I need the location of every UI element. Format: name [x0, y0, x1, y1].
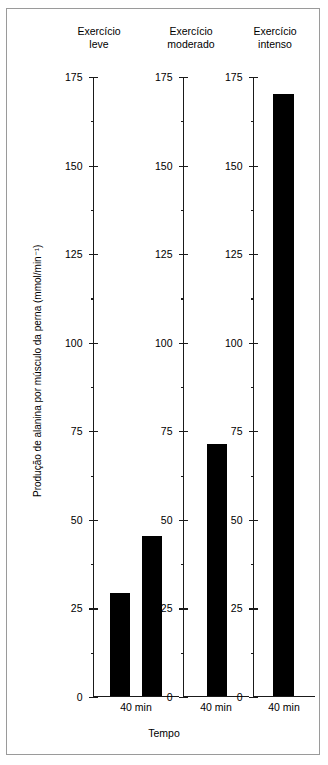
- y-tick-label-75: 75: [231, 426, 243, 437]
- y-tick-minor: [91, 210, 94, 211]
- y-tick-label-125: 125: [155, 249, 173, 260]
- y-tick-label-125: 125: [65, 249, 83, 260]
- y-tick-minor: [251, 653, 254, 654]
- y-tick-0: 0: [89, 697, 98, 698]
- y-tick-label-100: 100: [65, 337, 83, 348]
- y-tick-minor: [91, 476, 94, 477]
- y-tick-label-150: 150: [225, 160, 243, 171]
- y-tick-minor: [181, 298, 184, 299]
- y-tick-0: 0: [179, 697, 188, 698]
- panel-title-leve: Exercício leve: [55, 25, 143, 50]
- y-tick-150: 150: [249, 166, 258, 167]
- y-tick-label-75: 75: [71, 426, 83, 437]
- y-tick-minor: [181, 387, 184, 388]
- y-tick-25: 25: [89, 608, 98, 609]
- x-tick-label: 40 min: [237, 701, 328, 713]
- y-tick-minor: [91, 121, 94, 122]
- y-tick-100: 100: [179, 343, 188, 344]
- y-tick-150: 150: [89, 166, 98, 167]
- y-tick-label-150: 150: [155, 160, 173, 171]
- bar: [273, 94, 294, 696]
- y-tick-minor: [91, 564, 94, 565]
- y-tick-label-25: 25: [231, 603, 243, 614]
- panel-title-moderado: Exercício moderado: [147, 25, 235, 50]
- y-tick-100: 100: [89, 343, 98, 344]
- y-tick-minor: [181, 564, 184, 565]
- y-tick-label-175: 175: [65, 72, 83, 83]
- y-tick-minor: [251, 564, 254, 565]
- y-tick-label-100: 100: [155, 337, 173, 348]
- y-tick-minor: [181, 476, 184, 477]
- y-tick-50: 50: [89, 520, 98, 521]
- panel-title-intenso: Exercício intenso: [233, 25, 317, 50]
- bar: [110, 593, 130, 696]
- bar: [142, 536, 162, 695]
- y-tick-50: 50: [249, 520, 258, 521]
- y-tick-75: 75: [179, 431, 188, 432]
- y-axis-label-container: Produção de alanina por músculo da perna…: [21, 77, 41, 697]
- y-tick-minor: [251, 298, 254, 299]
- y-tick-100: 100: [249, 343, 258, 344]
- y-tick-minor: [251, 387, 254, 388]
- x-axis-baseline: [253, 696, 315, 697]
- y-tick-minor: [251, 210, 254, 211]
- y-tick-minor: [181, 210, 184, 211]
- y-tick-minor: [251, 476, 254, 477]
- y-tick-label-25: 25: [71, 603, 83, 614]
- figure-frame: Produção de alanina por músculo da perna…: [6, 8, 320, 755]
- y-tick-125: 125: [249, 254, 258, 255]
- y-tick-0: 0: [249, 697, 258, 698]
- y-tick-125: 125: [179, 254, 188, 255]
- y-tick-label-125: 125: [225, 249, 243, 260]
- panel-exercicio-intenso: 175 150 125 100 75 50 25 0 40 min: [253, 77, 315, 697]
- y-tick-175: 175: [179, 77, 188, 78]
- y-tick-175: 175: [89, 77, 98, 78]
- x-axis-label: Tempo: [7, 727, 321, 739]
- y-tick-50: 50: [179, 520, 188, 521]
- y-tick-label-50: 50: [71, 515, 83, 526]
- y-tick-75: 75: [249, 431, 258, 432]
- y-tick-label-175: 175: [225, 72, 243, 83]
- y-tick-label-50: 50: [161, 515, 173, 526]
- y-tick-minor: [91, 387, 94, 388]
- y-tick-150: 150: [179, 166, 188, 167]
- y-tick-minor: [91, 298, 94, 299]
- y-tick-minor: [181, 653, 184, 654]
- y-tick-label-75: 75: [161, 426, 173, 437]
- y-tick-minor: [181, 121, 184, 122]
- y-tick-label-100: 100: [225, 337, 243, 348]
- y-tick-125: 125: [89, 254, 98, 255]
- y-tick-label-175: 175: [155, 72, 173, 83]
- y-tick-minor: [251, 121, 254, 122]
- y-tick-label-25: 25: [161, 603, 173, 614]
- y-tick-minor: [91, 653, 94, 654]
- y-tick-75: 75: [89, 431, 98, 432]
- y-tick-175: 175: [249, 77, 258, 78]
- y-tick-25: 25: [249, 608, 258, 609]
- y-tick-25: 25: [179, 608, 188, 609]
- y-tick-label-150: 150: [65, 160, 83, 171]
- y-tick-label-50: 50: [231, 515, 243, 526]
- y-axis-label: Produção de alanina por músculo da perna…: [32, 277, 43, 497]
- bar: [207, 444, 227, 696]
- y-tick-label-0: 0: [77, 692, 83, 703]
